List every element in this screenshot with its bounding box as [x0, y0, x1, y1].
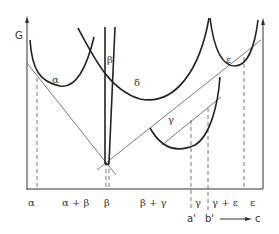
- region-beta-gamma: β + γ: [140, 197, 167, 208]
- y-axis-label: G: [15, 30, 23, 41]
- region-gamma-epsilon: γ + ε: [212, 197, 238, 208]
- composition-arrow-icon: [245, 217, 252, 221]
- region-epsilon: ε: [250, 197, 255, 208]
- gamma-curve: [150, 77, 220, 149]
- axes: [25, 16, 265, 190]
- region-alpha: α: [28, 197, 35, 208]
- region-beta: β: [104, 197, 110, 208]
- gamma-label: γ: [168, 114, 174, 125]
- beta-curve: [105, 27, 115, 165]
- composition-axis-label: c: [255, 213, 261, 224]
- region-alpha-beta: α + β: [62, 197, 89, 208]
- b-prime-label: b': [205, 213, 214, 224]
- a-prime-label: a': [187, 213, 196, 224]
- y-axis-arrow-icon: [25, 16, 29, 23]
- region-gamma: γ: [195, 197, 201, 208]
- beta-label: β: [107, 54, 113, 65]
- epsilon-label: ε: [226, 54, 231, 65]
- tangent-beta-gamma-epsilon: [97, 40, 261, 170]
- tangent-alpha-beta: [27, 63, 116, 175]
- delta-curve: [78, 18, 209, 100]
- free-energy-composition-diagram: G α β δ γ ε α α + β β β + γ γ γ + ε ε a'…: [0, 0, 279, 234]
- alpha-label: α: [52, 74, 59, 85]
- epsilon-curve: [210, 18, 258, 66]
- right-axis-arrow-icon: [261, 18, 265, 25]
- delta-label: δ: [134, 77, 140, 88]
